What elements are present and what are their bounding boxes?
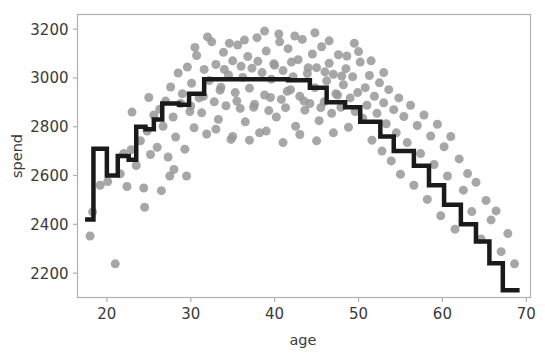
scatter-point xyxy=(329,70,338,79)
y-tick-label: 2200 xyxy=(30,265,68,283)
scatter-point xyxy=(440,142,449,151)
scatter-point xyxy=(171,132,180,141)
scatter-point xyxy=(277,95,286,104)
scatter-point xyxy=(350,39,359,48)
scatter-point xyxy=(132,161,141,170)
scatter-point xyxy=(384,85,393,94)
scatter-point xyxy=(122,182,131,191)
y-tick-label: 3200 xyxy=(30,21,68,39)
x-tick-label: 70 xyxy=(517,305,536,323)
scatter-point xyxy=(178,89,187,98)
scatter-point xyxy=(312,63,321,72)
scatter-point xyxy=(382,119,391,128)
scatter-point xyxy=(325,59,334,68)
scatter-point xyxy=(379,68,388,77)
scatter-point xyxy=(312,136,321,145)
scatter-point xyxy=(353,88,362,97)
x-tick-label: 30 xyxy=(181,305,200,323)
scatter-point xyxy=(284,44,293,53)
scatter-point xyxy=(308,50,317,59)
scatter-point xyxy=(243,52,252,61)
scatter-point xyxy=(279,138,288,147)
scatter-point xyxy=(262,127,271,136)
scatter-point xyxy=(320,67,329,76)
scatter-point xyxy=(325,36,334,45)
scatter-point xyxy=(270,61,279,70)
scatter-point xyxy=(455,154,464,163)
scatter-point xyxy=(237,62,246,71)
scatter-point xyxy=(295,130,304,139)
scatter-point xyxy=(503,229,512,238)
scatter-point xyxy=(182,172,191,181)
scatter-point xyxy=(342,51,351,60)
y-tick-label: 2800 xyxy=(30,118,68,136)
y-tick-label: 2600 xyxy=(30,167,68,185)
scatter-point xyxy=(467,207,476,216)
scatter-point xyxy=(253,33,262,42)
scatter-point xyxy=(497,247,506,256)
scatter-point xyxy=(443,172,452,181)
scatter-point xyxy=(327,109,336,118)
scatter-point xyxy=(253,57,262,66)
scatter-point xyxy=(128,108,137,117)
scatter-point xyxy=(300,97,309,106)
scatter-point xyxy=(315,116,324,125)
scatter-point xyxy=(413,121,422,130)
scatter-point xyxy=(187,79,196,88)
scatter-point xyxy=(210,97,219,106)
scatter-point xyxy=(216,86,225,95)
scatter-point xyxy=(482,196,491,205)
scatter-point xyxy=(245,84,254,93)
scatter-point xyxy=(310,28,319,37)
scatter-point xyxy=(333,91,342,100)
scatter-point xyxy=(190,43,199,52)
scatter-point xyxy=(394,93,403,102)
scatter-point xyxy=(317,42,326,51)
scatter-point xyxy=(228,132,237,141)
figure-background xyxy=(0,0,545,353)
chart-figure: 203040506070 220024002600280030003200 ag… xyxy=(0,0,545,353)
scatter-point xyxy=(372,109,381,118)
scatter-point xyxy=(203,32,212,41)
x-tick-label: 20 xyxy=(97,305,116,323)
scatter-point xyxy=(354,47,363,56)
scatter-point xyxy=(241,117,250,126)
scatter-point xyxy=(249,103,258,112)
scatter-point xyxy=(197,108,206,117)
scatter-point xyxy=(419,111,428,120)
scatter-point xyxy=(334,50,343,59)
scatter-point xyxy=(166,82,175,91)
scatter-point xyxy=(279,66,288,75)
scatter-point xyxy=(492,206,501,215)
x-tick-label: 60 xyxy=(433,305,452,323)
scatter-point xyxy=(192,51,201,60)
scatter-point xyxy=(260,27,269,36)
scatter-point xyxy=(157,186,166,195)
scatter-point xyxy=(471,178,480,187)
scatter-point xyxy=(228,56,237,65)
scatter-point xyxy=(202,130,211,139)
scatter-point xyxy=(389,105,398,114)
scatter-point xyxy=(232,97,241,106)
scatter-point xyxy=(416,149,425,158)
scatter-point xyxy=(367,56,376,65)
scatter-point xyxy=(221,101,230,110)
scatter-point xyxy=(225,39,234,48)
scatter-point xyxy=(220,65,229,74)
scatter-point xyxy=(433,120,442,129)
scatter-point xyxy=(200,65,209,74)
scatter-point xyxy=(348,72,357,81)
scatter-point xyxy=(258,68,267,77)
scatter-point xyxy=(274,30,283,39)
scatter-point xyxy=(329,128,338,137)
y-tick-label: 3000 xyxy=(30,69,68,87)
x-axis-label: age xyxy=(289,332,316,348)
scatter-point xyxy=(378,147,387,156)
scatter-point xyxy=(247,64,256,73)
scatter-point xyxy=(275,37,284,46)
scatter-point xyxy=(304,63,313,72)
scatter-point xyxy=(180,145,189,154)
scatter-point xyxy=(219,48,228,57)
scatter-point xyxy=(139,183,148,192)
scatter-point xyxy=(451,225,460,234)
